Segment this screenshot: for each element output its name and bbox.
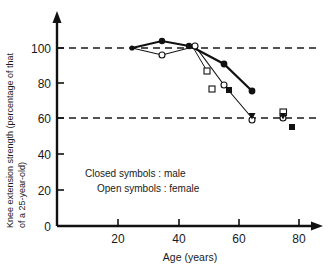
y-axis-tick-labels: 100 80 60 40 20 0: [31, 42, 51, 234]
x-tick-label-60: 60: [232, 232, 246, 246]
data-point: [159, 52, 165, 58]
x-tick-label-80: 80: [292, 232, 306, 246]
data-point: [192, 43, 198, 49]
knee-extension-strength-chart: Knee extension strength (percentage of t…: [0, 0, 330, 266]
y-tick-label-100: 100: [31, 42, 51, 56]
x-axis-title: Age (years): [163, 251, 217, 263]
data-point: [129, 45, 134, 50]
y-tick-label-60: 60: [38, 112, 52, 126]
y-tick-label-40: 40: [38, 148, 52, 162]
y-tick-label-20: 20: [38, 184, 52, 198]
y-axis-label: Knee extension strength (percentage of t…: [5, 52, 27, 228]
legend-item-open-female: Open symbols : female: [97, 183, 200, 194]
y-axis-label-line2: of a 25-year-old): [17, 162, 27, 228]
data-point: [159, 38, 165, 44]
x-tick-label-20: 20: [111, 232, 125, 246]
female-open-circle-line: [132, 46, 252, 118]
female-open-circle-markers: [159, 43, 286, 123]
chart-figure: Knee extension strength (percentage of t…: [0, 0, 330, 266]
data-point: [226, 87, 232, 93]
data-point: [289, 124, 295, 130]
data-point: [249, 88, 256, 95]
legend: Closed symbols : male Open symbols : fem…: [85, 168, 200, 194]
data-connector-lines: [132, 41, 252, 118]
data-point: [204, 68, 210, 74]
data-point: [221, 61, 228, 68]
data-point: [186, 43, 192, 49]
data-point: [209, 86, 215, 92]
legend-item-closed-male: Closed symbols : male: [85, 168, 186, 179]
reference-lines: [57, 48, 318, 118]
y-tick-label-0: 0: [44, 220, 51, 234]
y-tick-label-80: 80: [38, 77, 52, 91]
y-axis-arrowhead: [53, 11, 62, 23]
y-axis-label-line1: Knee extension strength (percentage of t…: [5, 52, 15, 228]
x-axis-tick-labels: 20 40 60 80: [111, 232, 306, 246]
x-axis-arrowhead: [311, 222, 323, 231]
x-tick-label-40: 40: [172, 232, 186, 246]
